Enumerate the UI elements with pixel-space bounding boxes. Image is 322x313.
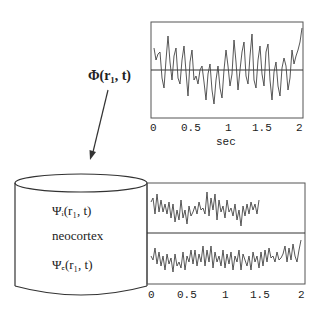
- bottom-tick-0: 0: [148, 289, 155, 301]
- phi-label: Φ(r₁, t): [88, 68, 131, 84]
- top-tick-0-5: 0.5: [181, 122, 201, 134]
- top-x-label: sec: [216, 136, 236, 148]
- top-tick-0: 0: [150, 122, 157, 134]
- bottom-plot: [147, 183, 305, 284]
- bottom-tick-1: 1: [222, 289, 229, 301]
- psi-i-signal-line: [151, 192, 259, 226]
- psi-e-signal-line: [151, 240, 301, 272]
- bottom-tick-1-5: 1.5: [250, 289, 270, 301]
- bottom-tick-0-5: 0.5: [177, 289, 197, 301]
- top-tick-1-5: 1.5: [252, 122, 272, 134]
- bottom-tick-2: 2: [298, 289, 305, 301]
- top-tick-2: 2: [296, 122, 303, 134]
- psi-e-label: Ψₑ(r₁, t): [52, 257, 93, 273]
- phi-signal-line: [154, 28, 302, 104]
- top-tick-1: 1: [225, 122, 232, 134]
- top-plot: [151, 22, 303, 118]
- diagram-canvas: [0, 0, 322, 313]
- neocortex-label: neocortex: [52, 228, 103, 244]
- psi-i-label: Ψᵢ(r₁, t): [52, 203, 91, 219]
- arrow: [90, 90, 109, 160]
